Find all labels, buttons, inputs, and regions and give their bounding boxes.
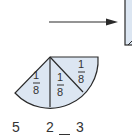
sector-3-numerator: 1 [78, 59, 84, 70]
fraction-diagram [0, 0, 132, 136]
partial-shape-right [125, 0, 132, 45]
sector-1-numerator: 1 [33, 70, 39, 81]
bottom-label-2: 2 [46, 120, 54, 134]
blank-underline [59, 134, 70, 135]
sector-2-numerator: 1 [57, 72, 63, 83]
sector-3-denominator: 8 [78, 74, 84, 85]
bottom-label-1: 5 [12, 120, 20, 134]
right-arrow-icon [49, 19, 118, 26]
sector-1-denominator: 8 [33, 85, 39, 96]
bottom-label-3: 3 [76, 120, 84, 134]
sector-2-denominator: 8 [57, 87, 63, 98]
